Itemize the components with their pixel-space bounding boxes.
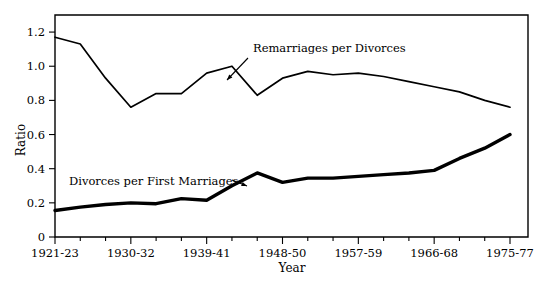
y-tick-label: 0.4 bbox=[27, 162, 45, 176]
y-tick-label: 1.2 bbox=[27, 25, 45, 39]
series-annotation-label-2: Divorces per First Marriages bbox=[69, 174, 239, 188]
y-tick-label: 1.0 bbox=[27, 59, 45, 73]
x-tick-label: 1948-50 bbox=[259, 246, 307, 260]
x-axis-title: Year bbox=[278, 261, 306, 275]
y-tick-label: 0 bbox=[38, 230, 45, 244]
x-tick-label: 1930-32 bbox=[107, 246, 155, 260]
line-chart: 00.20.40.60.81.01.2 1921-231930-321939-4… bbox=[0, 0, 556, 282]
y-axis-title: Ratio bbox=[14, 124, 28, 156]
x-tick-label: 1921-23 bbox=[31, 246, 79, 260]
chart-figure: 00.20.40.60.81.01.2 1921-231930-321939-4… bbox=[0, 0, 556, 282]
x-tick-label: 1939-41 bbox=[183, 246, 231, 260]
series-annotation-label-1: Remarriages per Divorces bbox=[253, 41, 406, 55]
x-tick-label: 1975-77 bbox=[486, 246, 534, 260]
y-tick-label: 0.2 bbox=[27, 196, 45, 210]
x-tick-label: 1966-68 bbox=[410, 246, 458, 260]
y-tick-label: 0.6 bbox=[27, 128, 45, 142]
y-tick-label: 0.8 bbox=[27, 93, 45, 107]
x-tick-label: 1957-59 bbox=[334, 246, 382, 260]
